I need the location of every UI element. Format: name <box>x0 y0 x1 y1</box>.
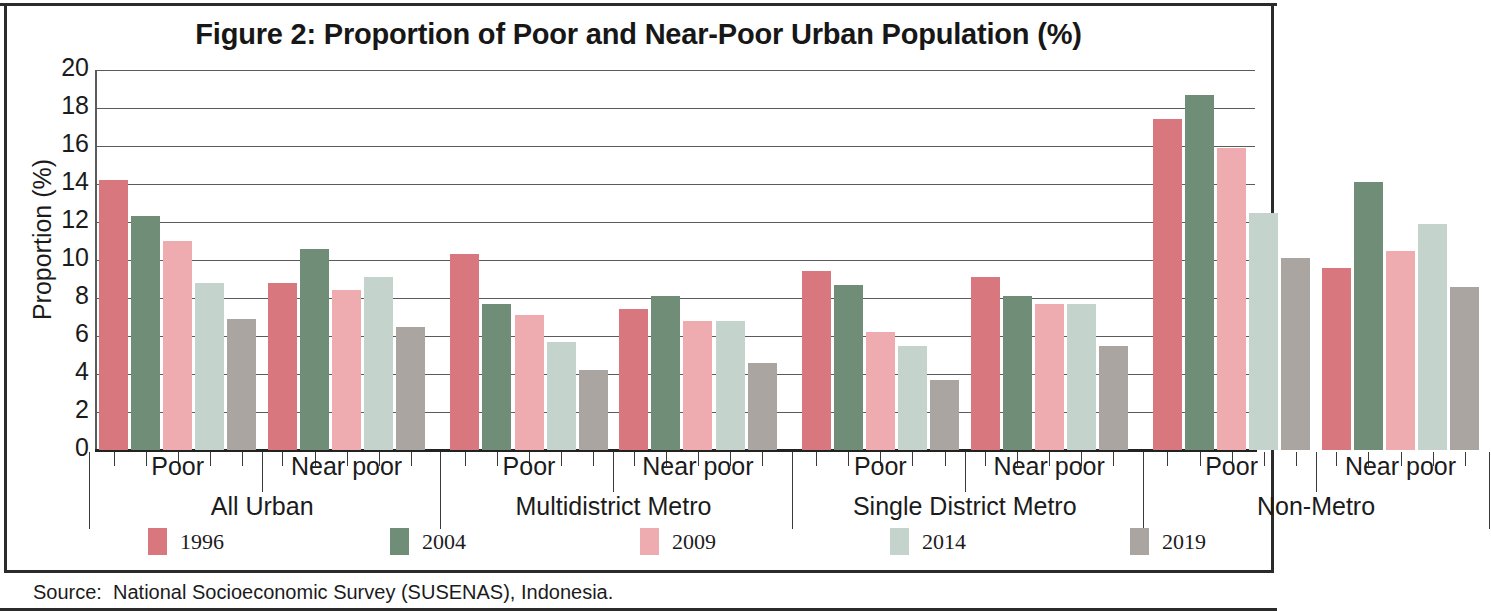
bar <box>930 380 959 450</box>
legend-item[interactable]: 2009 <box>640 528 716 555</box>
legend-item[interactable]: 2014 <box>890 528 966 555</box>
bar <box>163 241 192 450</box>
bar <box>1185 95 1214 450</box>
legend-swatch-icon <box>148 528 167 555</box>
bar <box>651 296 680 450</box>
bar <box>1153 119 1182 450</box>
bar <box>364 277 393 450</box>
group-separator-left <box>792 452 793 529</box>
subgroup-separator <box>1316 452 1317 492</box>
legend-item[interactable]: 2004 <box>390 528 466 555</box>
x-axis-subgroup-label: Poor <box>790 452 970 481</box>
x-axis-subgroup-label: Poor <box>439 452 619 481</box>
bar <box>332 290 361 450</box>
chart-title: Figure 2: Proportion of Poor and Near-Po… <box>0 18 1277 51</box>
bar <box>195 283 224 450</box>
chart-legend: 19962004200920142019 <box>0 528 1277 562</box>
bar <box>547 342 576 450</box>
bar <box>482 304 511 450</box>
x-axis-subgroup-label: Poor <box>88 452 268 481</box>
gridline <box>97 184 1255 185</box>
bar <box>1450 287 1479 450</box>
source-note: Source: National Socioeconomic Survey (S… <box>33 581 613 604</box>
gridline <box>97 222 1255 223</box>
gridline <box>97 108 1255 109</box>
bar <box>1281 258 1310 450</box>
x-axis-subgroup-label: Near poor <box>608 452 788 481</box>
gridline <box>97 70 1255 71</box>
bar <box>748 363 777 450</box>
bar <box>300 249 329 450</box>
bar <box>1035 304 1064 450</box>
gridline <box>97 146 1255 147</box>
legend-label: 2014 <box>922 529 966 555</box>
bar <box>268 283 297 450</box>
x-axis-subgroup-label: Near poor <box>257 452 437 481</box>
group-separator-right <box>1489 452 1490 529</box>
bar <box>1217 148 1246 450</box>
frame-border-top <box>0 3 1277 6</box>
bar <box>227 319 256 450</box>
legend-swatch-icon <box>640 528 659 555</box>
bar <box>834 285 863 450</box>
bar <box>1003 296 1032 450</box>
group-separator-left <box>440 452 441 529</box>
legend-item[interactable]: 1996 <box>148 528 224 555</box>
x-axis-group-label: Non-Metro <box>1166 492 1466 521</box>
legend-swatch-icon <box>390 528 409 555</box>
bar <box>1249 213 1278 451</box>
bar <box>1322 268 1351 450</box>
legend-label: 2004 <box>422 529 466 555</box>
bar <box>131 216 160 450</box>
bar <box>898 346 927 451</box>
bar <box>1099 346 1128 451</box>
bar <box>1386 251 1415 451</box>
bar <box>450 254 479 450</box>
bar <box>802 271 831 450</box>
bar <box>1354 182 1383 450</box>
group-separator-left <box>89 452 90 529</box>
y-axis-title: Proportion (%) <box>28 90 57 390</box>
x-axis-subgroup-label: Near poor <box>1311 452 1491 481</box>
bar <box>683 321 712 450</box>
x-axis-group-label: All Urban <box>112 492 412 521</box>
bar <box>619 309 648 450</box>
frame-border-left <box>4 3 7 573</box>
x-axis-group-label: Multidistrict Metro <box>463 492 763 521</box>
legend-label: 1996 <box>180 529 224 555</box>
bar <box>579 370 608 450</box>
y-axis-tick-label: 0 <box>43 433 89 462</box>
legend-item[interactable]: 2019 <box>1130 528 1206 555</box>
bar <box>1418 224 1447 450</box>
subgroup-separator <box>965 452 966 492</box>
subgroup-separator <box>262 452 263 492</box>
frame-divider <box>4 570 1273 573</box>
legend-label: 2009 <box>672 529 716 555</box>
y-axis-tick-label: 2 <box>43 395 89 424</box>
bar <box>1067 304 1096 450</box>
bar <box>99 180 128 450</box>
bar <box>866 332 895 450</box>
gridline <box>97 260 1255 261</box>
x-axis-subgroup-label: Near poor <box>959 452 1139 481</box>
bar <box>716 321 745 450</box>
x-axis-group-label: Single District Metro <box>815 492 1115 521</box>
bar <box>396 327 425 451</box>
legend-swatch-icon <box>1130 528 1149 555</box>
bar <box>515 315 544 450</box>
y-axis-tick-label: 20 <box>43 53 89 82</box>
group-separator-left <box>1143 452 1144 529</box>
legend-label: 2019 <box>1162 529 1206 555</box>
bar <box>971 277 1000 450</box>
legend-swatch-icon <box>890 528 909 555</box>
plot-area <box>97 70 1255 450</box>
subgroup-separator <box>613 452 614 492</box>
x-axis-subgroup-label: Poor <box>1142 452 1322 481</box>
